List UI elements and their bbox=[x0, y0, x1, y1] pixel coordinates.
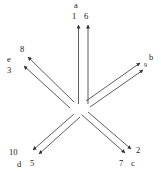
label-arrow-5: 5 bbox=[30, 159, 34, 168]
arrow-d-10 bbox=[33, 114, 74, 150]
arrow-e-3 bbox=[24, 66, 70, 108]
arrow-b-outer bbox=[86, 63, 140, 101]
label-group-c: c bbox=[131, 159, 135, 168]
label-arrow-3: 3 bbox=[7, 66, 11, 75]
label-arrow-2: 2 bbox=[136, 146, 140, 155]
label-group-a: a bbox=[74, 1, 78, 10]
label-arrow-10: 10 bbox=[9, 148, 18, 157]
arrow-c-7 bbox=[82, 115, 125, 153]
arrow-d-5 bbox=[39, 117, 80, 154]
label-group-d: d bbox=[17, 160, 21, 169]
label-arrow-6: 6 bbox=[84, 12, 88, 21]
arrow-c-2 bbox=[88, 112, 131, 149]
label-arrow-8: 8 bbox=[20, 45, 24, 54]
label-arrow-9: 9 bbox=[144, 62, 147, 68]
label-arrow-7: 7 bbox=[119, 159, 123, 168]
arrow-e-8 bbox=[28, 57, 74, 102]
label-group-e: e bbox=[7, 55, 11, 64]
radial-arrow-diagram: a 1 6 b 9 8 e 3 10 d 5 2 7 c bbox=[0, 0, 161, 173]
label-group-b: b bbox=[149, 53, 153, 62]
label-arrow-1: 1 bbox=[72, 12, 76, 21]
arrow-b-inner bbox=[90, 70, 143, 107]
